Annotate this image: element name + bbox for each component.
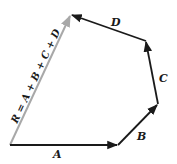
vector-b-label: B [136,130,146,143]
resultant-label: R = A + B + C + D [8,27,62,126]
vector-r-arrow [10,16,70,145]
vector-a-label: A [52,148,62,161]
vector-c-arrow [146,42,158,104]
vector-c-label: C [159,72,168,85]
vector-polygon-diagram: A B C D R = A + B + C + D [0,0,177,164]
vector-d-arrow [72,15,146,41]
vector-d-label: D [110,16,121,29]
